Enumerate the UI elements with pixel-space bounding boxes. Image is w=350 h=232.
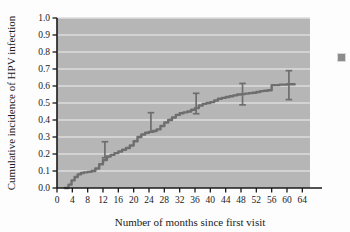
x-axis-ticks-group: 0481216202428323640444852566064 <box>55 188 308 205</box>
y-axis-ticks-group: 0.00.10.20.30.40.50.60.70.80.91.0 <box>38 13 57 193</box>
y-tick-label: 0.2 <box>38 149 50 159</box>
y-tick-label: 0.4 <box>38 115 50 125</box>
y-tick-label: 1.0 <box>38 13 50 23</box>
y-tick-label: 0.8 <box>38 47 50 57</box>
chart-figure: 0481216202428323640444852566064 0.00.10.… <box>0 0 350 232</box>
x-tick-label: 28 <box>160 195 170 205</box>
x-tick-label: 12 <box>98 195 108 205</box>
x-tick-label: 8 <box>85 195 90 205</box>
y-tick-label: 0.0 <box>38 183 50 193</box>
x-tick-label: 56 <box>267 195 277 205</box>
x-axis-label: Number of months since first visit <box>115 216 266 228</box>
x-tick-label: 16 <box>114 195 124 205</box>
x-tick-label: 36 <box>190 195 200 205</box>
x-tick-label: 64 <box>298 195 308 205</box>
x-tick-label: 4 <box>70 195 75 205</box>
y-tick-label: 0.1 <box>38 166 50 176</box>
y-tick-label: 0.3 <box>38 132 50 142</box>
x-tick-label: 0 <box>55 195 60 205</box>
y-tick-label: 0.6 <box>38 81 50 91</box>
x-tick-label: 40 <box>206 195 216 205</box>
y-axis-label: Cumulative incidence of HPV infection <box>5 15 17 190</box>
y-tick-label: 0.9 <box>38 30 50 40</box>
x-tick-label: 44 <box>221 195 231 205</box>
corner-square-mark <box>337 53 346 62</box>
x-tick-label: 60 <box>282 195 292 205</box>
x-tick-label: 52 <box>252 195 262 205</box>
x-tick-label: 24 <box>144 195 154 205</box>
y-tick-label: 0.7 <box>38 64 50 74</box>
x-tick-label: 48 <box>236 195 246 205</box>
cumulative-incidence-chart: 0481216202428323640444852566064 0.00.10.… <box>0 0 350 232</box>
x-tick-label: 32 <box>175 195 185 205</box>
y-tick-label: 0.5 <box>38 98 50 108</box>
x-tick-label: 20 <box>129 195 139 205</box>
